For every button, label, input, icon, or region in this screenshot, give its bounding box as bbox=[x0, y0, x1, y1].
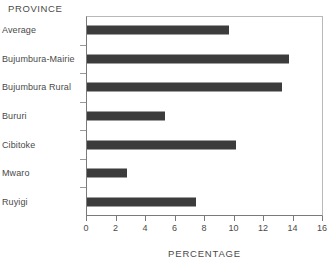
bar-row bbox=[87, 102, 323, 131]
y-axis-label: Bujumbura Rural bbox=[2, 73, 78, 102]
x-axis-tick bbox=[116, 216, 117, 221]
bar bbox=[87, 111, 165, 120]
x-axis-tick-label: 6 bbox=[172, 223, 177, 233]
x-axis-tick bbox=[86, 216, 87, 221]
page-title: PROVINCE bbox=[8, 3, 62, 14]
y-axis-label: Bururi bbox=[2, 102, 78, 131]
bar bbox=[87, 26, 229, 35]
bar-row bbox=[87, 73, 323, 102]
y-axis-tick bbox=[80, 130, 86, 131]
bar bbox=[87, 83, 282, 92]
x-axis-tick-label: 10 bbox=[228, 223, 238, 233]
bar-row bbox=[87, 45, 323, 74]
x-axis-title: PERCENTAGE bbox=[86, 248, 323, 259]
x-axis-ticks: 0246810121416 bbox=[86, 216, 323, 246]
y-axis-label: Ruyigi bbox=[2, 187, 78, 216]
x-axis-tick-label: 4 bbox=[142, 223, 147, 233]
y-axis-tick bbox=[80, 45, 86, 46]
bars-layer bbox=[87, 16, 323, 216]
y-axis-tick bbox=[80, 187, 86, 188]
y-axis-tick bbox=[80, 159, 86, 160]
x-axis-tick bbox=[204, 216, 205, 221]
x-axis-tick-label: 16 bbox=[317, 223, 327, 233]
x-axis-tick bbox=[234, 216, 235, 221]
x-axis-tick-label: 0 bbox=[83, 223, 88, 233]
bar bbox=[87, 140, 236, 149]
y-axis-tick bbox=[80, 73, 86, 74]
x-axis-tick bbox=[322, 216, 323, 221]
bar bbox=[87, 54, 289, 63]
bar-chart: PROVINCE AverageBujumbura-MairieBujumbur… bbox=[0, 0, 336, 272]
y-axis-label: Cibitoke bbox=[2, 130, 78, 159]
x-axis-tick-label: 12 bbox=[258, 223, 268, 233]
x-axis-tick bbox=[145, 216, 146, 221]
y-axis-label: Mwaro bbox=[2, 159, 78, 188]
bar-row bbox=[87, 16, 323, 45]
y-axis-label: Average bbox=[2, 16, 78, 45]
y-axis-tick bbox=[80, 102, 86, 103]
bar-row bbox=[87, 130, 323, 159]
x-axis-tick bbox=[293, 216, 294, 221]
y-axis-label: Bujumbura-Mairie bbox=[2, 45, 78, 74]
bar-row bbox=[87, 187, 323, 216]
bar bbox=[87, 197, 196, 206]
y-axis-labels: AverageBujumbura-MairieBujumbura RuralBu… bbox=[0, 16, 82, 216]
x-axis-tick bbox=[175, 216, 176, 221]
x-axis-tick-label: 2 bbox=[113, 223, 118, 233]
bar-row bbox=[87, 159, 323, 188]
x-axis-tick bbox=[263, 216, 264, 221]
bar bbox=[87, 169, 127, 178]
x-axis-tick-label: 14 bbox=[287, 223, 297, 233]
x-axis-tick-label: 8 bbox=[201, 223, 206, 233]
